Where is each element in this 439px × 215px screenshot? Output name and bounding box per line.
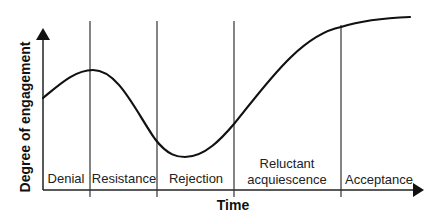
stage-label-acceptance: Acceptance: [345, 172, 413, 187]
engagement-curve: [43, 17, 410, 157]
x-axis-title: Time: [217, 197, 250, 213]
stage-label-rejection: Rejection: [169, 171, 223, 186]
y-axis-title: Degree of engagement: [17, 41, 33, 192]
stage-label-reluctant: Reluctant: [260, 156, 315, 171]
x-axis-arrowhead-icon: [413, 183, 424, 197]
stage-label-acquiescence: acquiescence: [247, 172, 327, 187]
stage-label-resistance: Resistance: [92, 171, 156, 186]
stage-label-denial: Denial: [48, 171, 85, 186]
y-axis-arrowhead-icon: [36, 28, 50, 40]
change-curve-diagram: Denial Resistance Rejection Reluctant ac…: [0, 0, 439, 215]
